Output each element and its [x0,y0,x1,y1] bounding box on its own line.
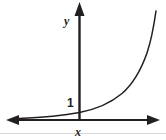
x-axis-label: x [75,126,81,138]
graph-canvas [0,0,166,140]
x-axis-left-arrow-icon [6,115,19,125]
y-intercept-tick-label: 1 [67,97,74,109]
exponential-curve [19,11,156,119]
y-axis-label: y [64,15,69,27]
x-axis-right-arrow-icon [147,115,160,125]
y-axis-up-arrow-icon [75,2,85,16]
exponential-graph-figure: y x 1 [0,0,166,140]
